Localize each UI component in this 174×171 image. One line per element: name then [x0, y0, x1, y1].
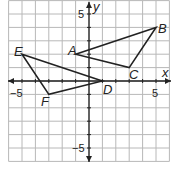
y-tick-label-neg5: −5	[72, 142, 85, 154]
vertex-label-f: F	[41, 94, 50, 109]
y-axis	[86, 2, 92, 162]
vertex-label-c: C	[129, 67, 139, 82]
vertex-label-b: B	[158, 21, 167, 36]
vertex-label-a: A	[67, 43, 77, 58]
x-axis-label: x	[161, 65, 169, 80]
y-tick-label-5: 5	[78, 8, 84, 20]
coordinate-plane: x y −5 5 5 −5 A B C D E F	[0, 0, 174, 171]
vertex-label-d: D	[103, 82, 112, 97]
y-axis-label: y	[92, 0, 101, 14]
x-tick-label-neg5: −5	[10, 87, 23, 99]
x-tick-label-5: 5	[152, 87, 158, 99]
vertex-label-e: E	[14, 44, 23, 59]
